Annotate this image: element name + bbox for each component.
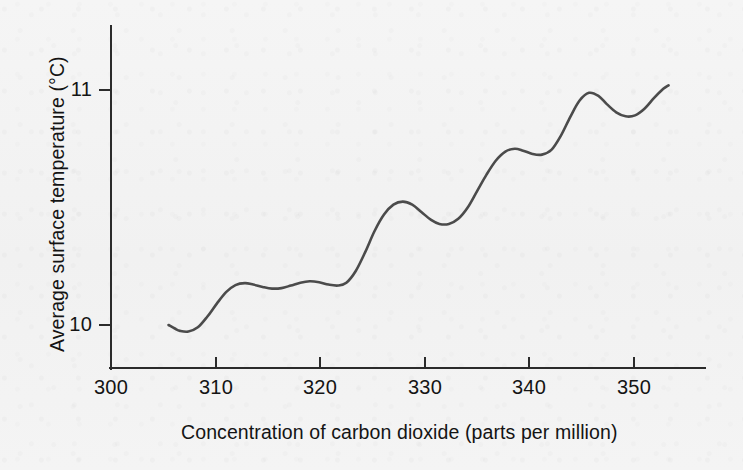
temperature-curve	[169, 85, 669, 331]
plot-area	[0, 0, 743, 470]
x-tick-label-340: 340	[499, 376, 559, 399]
x-axis-title: Concentration of carbon dioxide (parts p…	[181, 421, 617, 444]
x-tick-label-320: 320	[290, 376, 350, 399]
figure-container: 11 10 300 310 320 330 340 350 Average su…	[0, 0, 743, 470]
x-tick-label-310: 310	[186, 376, 246, 399]
x-tick-label-350: 350	[604, 376, 664, 399]
y-axis-title: Average surface temperature (°C)	[46, 56, 69, 352]
x-tick-label-330: 330	[395, 376, 455, 399]
x-tick-label-300: 300	[81, 376, 141, 399]
